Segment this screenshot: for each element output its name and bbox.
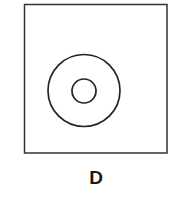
figure-label: D (0, 166, 178, 190)
outer-circle (48, 55, 120, 127)
square-frame (25, 5, 168, 154)
inner-circle (72, 79, 96, 103)
